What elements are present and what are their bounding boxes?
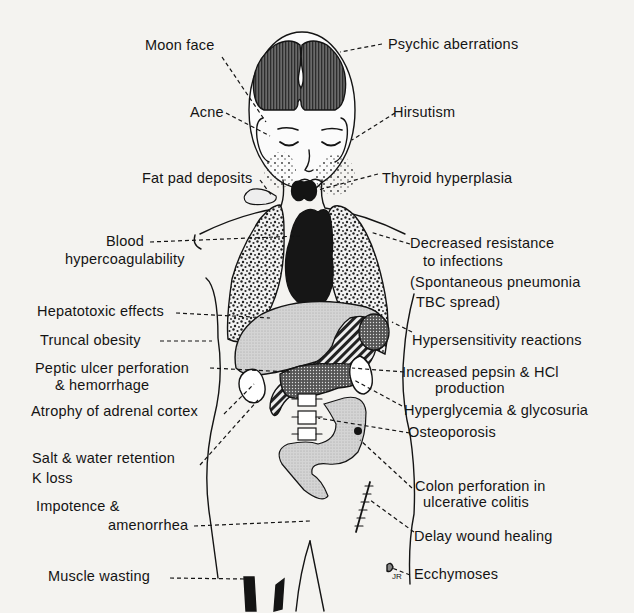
spine — [292, 394, 322, 440]
label-colon-1: Colon perforation in — [415, 478, 546, 495]
heart — [286, 209, 334, 306]
leader-hirsutism — [352, 113, 395, 140]
label-infection-4: TBC spread) — [416, 294, 500, 311]
label-impotence-1: Impotence & — [36, 498, 120, 515]
spleen — [359, 314, 389, 350]
label-fat-pad-deposits: Fat pad deposits — [142, 170, 252, 187]
label-hyperglycemia: Hyperglycemia & glycosuria — [404, 402, 588, 419]
label-moon-face: Moon face — [145, 37, 215, 54]
label-peptic-1: Peptic ulcer perforation — [35, 360, 189, 377]
label-pepsin-1: Increased pepsin & HCl — [402, 364, 559, 381]
leader-hypersensitivity — [392, 322, 412, 332]
label-infection-3: (Spontaneous pneumonia — [410, 274, 580, 291]
label-psychic-aberrations: Psychic aberrations — [388, 36, 518, 53]
label-blood-1: Blood — [60, 233, 190, 250]
leader-wound — [370, 500, 414, 532]
label-hepatotoxic: Hepatotoxic effects — [37, 303, 164, 320]
left-kidney — [239, 369, 265, 403]
label-peptic-2: & hemorrhage — [55, 377, 149, 394]
label-acne: Acne — [190, 104, 224, 121]
artist-signature: JR — [392, 572, 402, 581]
muscle-left — [244, 577, 256, 611]
wound — [356, 482, 370, 532]
label-salt-1: Salt & water retention — [32, 450, 175, 467]
label-colon-2: ulcerative colitis — [423, 494, 529, 511]
leader-muscle — [170, 578, 244, 579]
label-infection-2: to infections — [423, 253, 503, 270]
label-hypersensitivity: Hypersensitivity reactions — [412, 332, 582, 349]
label-thyroid-hyperplasia: Thyroid hyperplasia — [382, 170, 512, 187]
label-blood-2: hypercoagulability — [65, 251, 185, 268]
label-ecchymoses: Ecchymoses — [414, 566, 498, 583]
leader-psychic — [340, 44, 382, 52]
label-delay-wound-healing: Delay wound healing — [414, 528, 552, 545]
ecchymosis-mark — [387, 563, 393, 571]
label-impotence-2: amenorrhea — [108, 517, 188, 534]
muscle-right — [274, 579, 284, 611]
fat-pad — [244, 189, 276, 205]
torso-left-outline — [206, 278, 220, 578]
label-truncal-obesity: Truncal obesity — [40, 332, 141, 349]
label-infection-1: Decreased resistance — [410, 235, 554, 252]
colon — [279, 397, 366, 499]
label-adrenal-atrophy: Atrophy of adrenal cortex — [31, 403, 198, 420]
leader-salt — [200, 400, 258, 465]
label-pepsin-2: production — [435, 380, 505, 397]
leader-colon — [360, 440, 412, 488]
label-muscle-wasting: Muscle wasting — [48, 568, 150, 585]
label-hirsutism: Hirsutism — [393, 104, 455, 121]
label-osteoporosis: Osteoporosis — [408, 424, 496, 441]
label-salt-2: K loss — [32, 470, 73, 487]
thyroid — [292, 181, 317, 200]
